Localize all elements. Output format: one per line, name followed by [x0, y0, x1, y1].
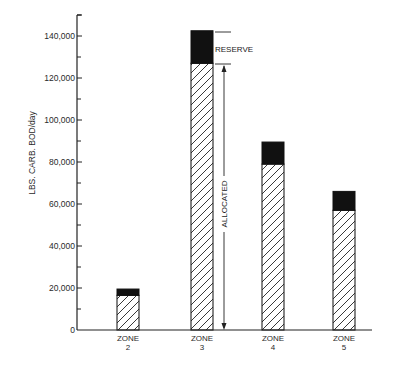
- x-axis-labels: ZONE2ZONE3ZONE4ZONE5: [117, 334, 355, 352]
- axes: [77, 15, 372, 330]
- x-tick-label: ZONE: [117, 334, 139, 343]
- bar-zone-5: [333, 191, 355, 330]
- allocated-segment: [117, 295, 139, 330]
- y-tick-label: 140,000: [44, 31, 75, 41]
- x-tick-label: ZONE: [262, 334, 284, 343]
- allocated-annotation: ALLOCATED: [220, 180, 229, 227]
- y-axis-ticks: 020,00040,00060,00080,000100,000120,0001…: [44, 15, 82, 335]
- allocated-segment: [262, 164, 284, 330]
- y-tick-label: 80,000: [49, 157, 75, 167]
- bar-zone-3: [191, 31, 213, 330]
- x-tick-label: 5: [342, 343, 347, 352]
- zone3-annotations: RESERVE ALLOCATED: [215, 32, 253, 330]
- arrowhead-down-icon: [222, 323, 227, 330]
- x-tick-label: 3: [200, 343, 205, 352]
- y-tick-label: 120,000: [44, 73, 75, 83]
- reserve-segment: [333, 191, 355, 210]
- y-tick-label: 0: [70, 325, 75, 335]
- x-tick-label: ZONE: [333, 334, 355, 343]
- x-tick-label: ZONE: [191, 334, 213, 343]
- reserve-annotation: RESERVE: [215, 45, 253, 54]
- arrowhead-up-icon: [222, 65, 227, 72]
- y-tick-label: 40,000: [49, 241, 75, 251]
- reserve-segment: [262, 142, 284, 164]
- bars: [117, 31, 355, 330]
- bar-zone-2: [117, 289, 139, 330]
- allocated-segment: [333, 210, 355, 330]
- y-axis-label: LBS. CARB. BOD/day: [27, 110, 37, 194]
- y-tick-label: 20,000: [49, 283, 75, 293]
- y-tick-label: 60,000: [49, 199, 75, 209]
- x-tick-label: 4: [271, 343, 276, 352]
- bar-zone-4: [262, 142, 284, 330]
- x-tick-label: 2: [126, 343, 131, 352]
- y-tick-label: 100,000: [44, 115, 75, 125]
- allocated-segment: [191, 63, 213, 330]
- reserve-segment: [191, 31, 213, 64]
- stacked-bar-chart: LBS. CARB. BOD/day 020,00040,00060,00080…: [0, 0, 404, 373]
- reserve-segment: [117, 289, 139, 295]
